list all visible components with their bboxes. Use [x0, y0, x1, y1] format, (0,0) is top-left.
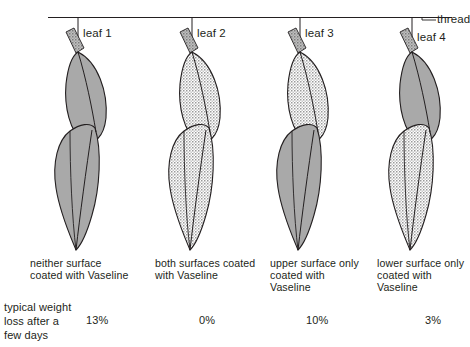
leaf-3-label: leaf 3	[305, 27, 334, 40]
leaf-4-weight-loss: 3%	[425, 314, 441, 327]
leaf-2-caption-line-1: both surfaces coated	[155, 257, 255, 269]
leaf-4-petiole	[400, 28, 418, 53]
leaf-1-group	[55, 18, 106, 251]
leaf-2-weight-loss: 0%	[199, 314, 215, 327]
leaf-2-lower-surface	[169, 124, 214, 250]
leaf-3-caption-line-1: upper surface only	[270, 257, 359, 269]
leaf-1-petiole	[66, 28, 84, 53]
leaf-4-caption-line-3: Vaseline	[377, 281, 418, 293]
leaf-4-group	[389, 18, 440, 251]
leaf-1-caption-line-1: neither surface	[30, 257, 102, 269]
leaf-3-caption-line-3: Vaseline	[270, 281, 311, 293]
leaf-2-group	[169, 18, 220, 251]
leaf-1-lower-surface	[55, 124, 100, 250]
leaf-2-petiole	[180, 28, 198, 53]
leaf-1-caption-line-2: coated with Vaseline	[30, 269, 128, 281]
leaf-1-label: leaf 1	[83, 27, 112, 40]
weight-loss-legend-line-1: typical weight	[4, 300, 71, 314]
weight-loss-legend-line-3: few days	[4, 328, 48, 342]
leaf-2-caption-line-2: with Vaseline	[155, 269, 218, 281]
leaf-2-label: leaf 2	[197, 27, 226, 40]
leaf-4-caption-line-2: coated with	[377, 269, 432, 281]
leaf-4-caption-line-1: lower surface only	[377, 257, 464, 269]
leaf-4-lower-surface	[389, 124, 434, 250]
thread-label: thread	[437, 13, 470, 26]
leaf-3-lower-surface	[277, 124, 322, 250]
leaf-4-label: leaf 4	[417, 31, 446, 44]
leaf-3-group	[277, 18, 328, 251]
weight-loss-legend-line-2: loss after a	[4, 314, 59, 328]
leaf-1-weight-loss: 13%	[86, 314, 108, 327]
leaf-3-petiole	[288, 28, 306, 53]
leaf-3-weight-loss: 10%	[306, 314, 328, 327]
leaf-3-caption-line-2: coated with	[270, 269, 325, 281]
thread-line-group	[48, 18, 452, 21]
